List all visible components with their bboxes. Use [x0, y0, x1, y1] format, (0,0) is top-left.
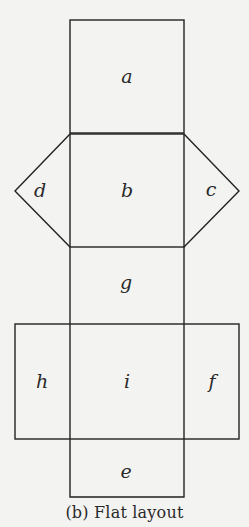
face-label-e: e — [120, 460, 131, 482]
net-diagram: a b c d g h i f e — [0, 0, 249, 527]
face-label-g: g — [120, 271, 132, 293]
face-label-i: i — [124, 370, 130, 392]
face-label-f: f — [206, 370, 218, 392]
face-label-b: b — [121, 179, 133, 201]
face-label-h: h — [36, 370, 48, 392]
face-label-a: a — [121, 65, 132, 87]
face-label-d: d — [34, 179, 46, 201]
figure-caption: (b) Flat layout — [0, 503, 249, 522]
face-label-c: c — [206, 178, 217, 200]
figure: a b c d g h i f e (b) Flat layout — [0, 0, 249, 527]
